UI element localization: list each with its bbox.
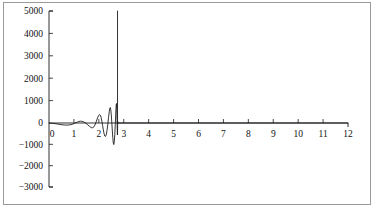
y-axis-tick-label: 4000	[24, 29, 43, 39]
plot-area: −3000−2000−10000100020003000400050000123…	[4, 3, 372, 206]
y-axis-tick-label: 2000	[24, 74, 43, 84]
x-axis-tick-label: 5	[171, 129, 176, 139]
x-axis-tick-label: 7	[221, 129, 226, 139]
x-axis-tick-label: 8	[246, 129, 251, 139]
x-axis-tick-label: 2	[96, 129, 101, 139]
chart-svg: −3000−2000−10000100020003000400050000123…	[4, 3, 372, 206]
y-axis-tick-label: 0	[38, 118, 43, 128]
y-axis-tick-label: 1000	[24, 96, 43, 106]
x-axis-tick-label: 12	[343, 129, 353, 139]
x-axis-tick-label: 1	[72, 129, 77, 139]
y-axis-tick-label: 3000	[24, 51, 43, 61]
x-axis-tick-label: 10	[293, 129, 303, 139]
x-axis-tick-label: 11	[319, 129, 328, 139]
x-axis-tick-label: 3	[121, 129, 126, 139]
y-axis-tick-label: 5000	[24, 6, 43, 16]
y-axis-tick-label: −3000	[19, 182, 44, 192]
x-axis-tick-label: 4	[146, 129, 151, 139]
x-axis-tick-label: 9	[271, 129, 276, 139]
x-axis-tick-label: 0	[50, 129, 55, 139]
y-axis-tick-label: −2000	[19, 161, 44, 171]
figure-frame: −3000−2000−10000100020003000400050000123…	[3, 2, 371, 205]
y-axis-line	[49, 11, 53, 187]
y-axis-tick-label: −1000	[19, 140, 44, 150]
x-axis-tick-label: 6	[196, 129, 201, 139]
